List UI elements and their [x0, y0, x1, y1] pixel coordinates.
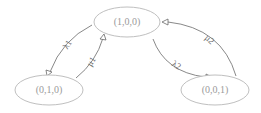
arrowhead-mu2-icon	[162, 19, 168, 25]
edge-lambda2	[153, 39, 205, 77]
node-label-0-0-1: (0,0,1)	[202, 84, 229, 96]
node-label-1-0-0: (1,0,0)	[114, 16, 141, 28]
node-label-0-1-0: (0,1,0)	[36, 84, 63, 96]
node-0-1-0: (0,1,0)	[15, 75, 83, 105]
edge-label-mu2: μ2	[203, 32, 217, 46]
edge-label-mu1: μ1	[84, 55, 97, 68]
edge-lambda1	[50, 25, 92, 72]
node-1-0-0: (1,0,0)	[94, 7, 160, 37]
node-0-0-1: (0,0,1)	[181, 75, 249, 105]
state-diagram: λ1 μ1 λ2 μ2 (1,0,0) (0,1,0) (0,0,1)	[0, 0, 261, 113]
edge-label-lambda2: λ2	[170, 59, 183, 72]
arrowhead-mu1-icon	[100, 34, 106, 40]
